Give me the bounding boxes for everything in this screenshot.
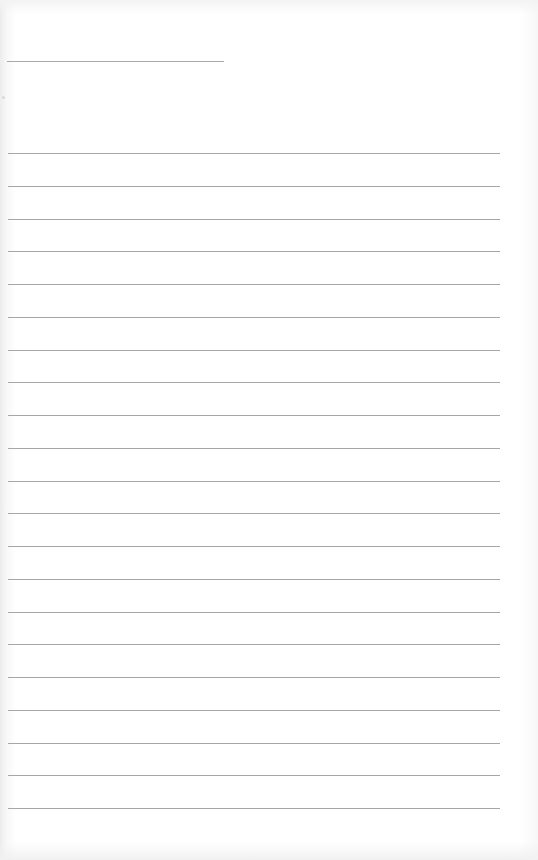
- ruled-line: [8, 612, 500, 613]
- ruled-line: [8, 775, 500, 776]
- scan-edge-top: [0, 0, 538, 14]
- ruled-line: [8, 153, 500, 154]
- ruled-line: [8, 644, 500, 645]
- ruled-line: [8, 382, 500, 383]
- ruled-line: [8, 808, 500, 809]
- ruled-line: [8, 579, 500, 580]
- ruled-line: [8, 350, 500, 351]
- ruled-line: [8, 710, 500, 711]
- ruled-line: [8, 546, 500, 547]
- ruled-line: [8, 186, 500, 187]
- ruled-line: [8, 743, 500, 744]
- ruled-line: [8, 251, 500, 252]
- scan-speck: [2, 96, 5, 99]
- ruled-line: [8, 317, 500, 318]
- header-blank-line: [7, 61, 224, 62]
- scan-edge-bottom: [0, 842, 538, 860]
- ruled-line: [8, 513, 500, 514]
- ruled-line: [8, 677, 500, 678]
- ruled-line: [8, 481, 500, 482]
- ruled-line: [8, 448, 500, 449]
- ruled-line: [8, 219, 500, 220]
- ruled-line: [8, 415, 500, 416]
- ruled-line: [8, 284, 500, 285]
- lined-page: [0, 0, 538, 860]
